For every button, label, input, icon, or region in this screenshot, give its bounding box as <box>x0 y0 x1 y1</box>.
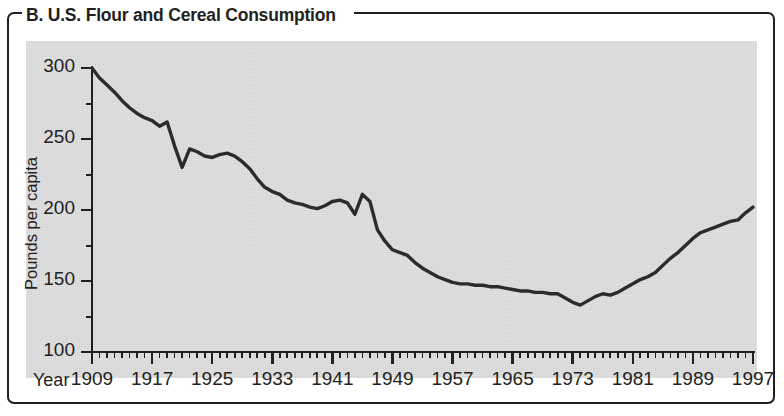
y-axis-title: Pounds per capita <box>22 157 41 290</box>
data-series-group <box>92 68 753 305</box>
y-tick-label: 100 <box>15 339 75 361</box>
y-tick-label: 300 <box>15 55 75 77</box>
x-axis-title: Year <box>33 370 69 391</box>
data-line-flour-cereal <box>92 68 753 305</box>
x-tick-label: 1997 <box>713 368 784 390</box>
y-tick-label: 250 <box>15 126 75 148</box>
axes-group <box>81 66 755 364</box>
line-chart-plot <box>0 0 784 416</box>
figure-panel-b: B. U.S. Flour and Cereal Consumption 100… <box>0 0 784 416</box>
